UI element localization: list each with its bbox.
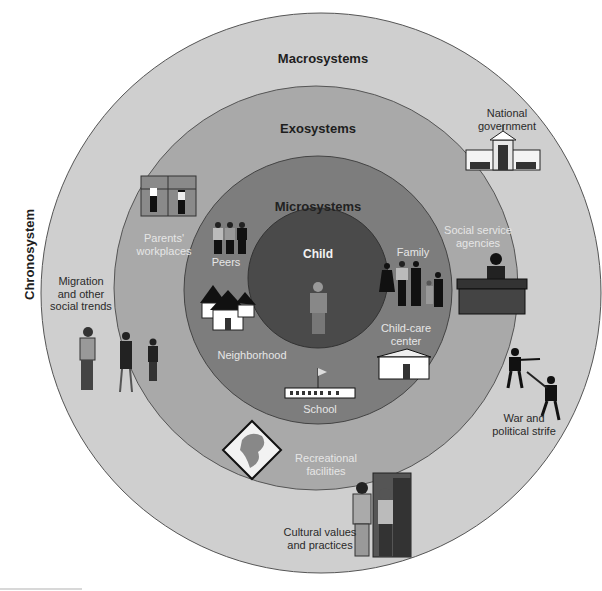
- label-school: School: [298, 403, 342, 416]
- label-neighborhood: Neighborhood: [212, 349, 292, 362]
- divider: [0, 588, 82, 590]
- label-child-care-center: Child-care center: [374, 322, 438, 347]
- child-title: Child: [298, 248, 338, 262]
- label-national-government: National government: [462, 107, 552, 132]
- label-recreational-facilities: Recreational facilities: [286, 452, 366, 477]
- label-migration: Migration and other social trends: [46, 275, 116, 313]
- label-cultural-values: Cultural values and practices: [270, 526, 370, 551]
- label-war-political-strife: War and political strife: [484, 412, 564, 437]
- macrosystems-title: Macrosystems: [268, 52, 378, 67]
- microsystems-title: Microsystems: [266, 200, 370, 215]
- label-peers: Peers: [206, 256, 246, 269]
- chronosystem-label: Chronosystem: [22, 209, 37, 300]
- label-family: Family: [390, 246, 436, 259]
- peer-group-icon: [213, 222, 247, 254]
- exosystems-title: Exosystems: [268, 122, 368, 137]
- workplace-shelves-icon: [141, 176, 196, 216]
- label-parents-workplaces: Parents' workplaces: [128, 232, 200, 257]
- label-social-service-agencies: Social service agencies: [436, 224, 520, 249]
